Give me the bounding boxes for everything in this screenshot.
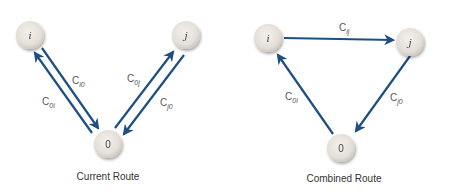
edge-j-to-0 [124, 55, 184, 134]
edge-label-c0i: C0i [42, 96, 55, 109]
node-j: j [172, 21, 200, 49]
edge-label-cj0: Cj0 [160, 97, 173, 111]
edge-label-c0i: C0i [285, 91, 298, 104]
node-i: i [16, 21, 44, 49]
svg-text:0: 0 [338, 143, 344, 154]
edge-j-to-0 [356, 56, 410, 131]
edge-i-to-j [284, 38, 393, 40]
caption-combined-route: Combined Route [306, 173, 381, 184]
combined-route-diagram: Cij Cj0 C0i i j 0 Combined Route [254, 22, 424, 184]
edge-0-to-i [35, 53, 92, 133]
edge-label-cij: Cij [339, 22, 350, 36]
node-j: j [396, 28, 424, 56]
node-depot-0: 0 [327, 134, 355, 162]
edge-label-cj0: Cj0 [390, 92, 403, 106]
route-diagrams: Ci0 C0i C0j Cj0 i j 0 Current Route [0, 0, 457, 196]
edge-label-c0j: C0j [127, 73, 140, 87]
svg-text:i: i [28, 30, 31, 41]
caption-current-route: Current Route [77, 171, 140, 182]
node-depot-0: 0 [94, 130, 122, 158]
edge-0-to-j [115, 52, 173, 128]
svg-text:0: 0 [105, 139, 111, 150]
svg-text:i: i [266, 33, 269, 44]
edge-i-to-0 [42, 48, 98, 128]
node-i: i [254, 24, 282, 52]
current-route-diagram: Ci0 C0i C0j Cj0 i j 0 Current Route [16, 21, 200, 182]
edge-label-ci0: Ci0 [72, 75, 85, 88]
